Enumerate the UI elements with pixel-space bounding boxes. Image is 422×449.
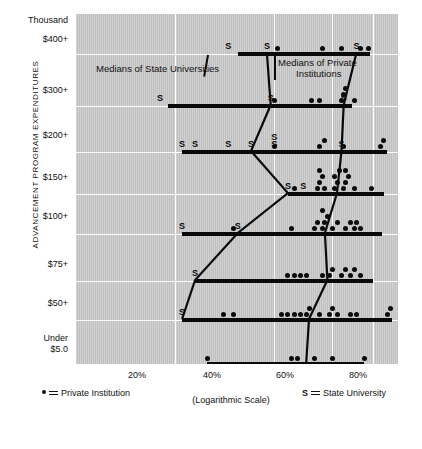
- private-institution-dot: [320, 226, 325, 231]
- private-institution-dot: [231, 312, 236, 317]
- y-tick-100: $100+: [4, 211, 68, 221]
- legend-state-label: State University: [323, 388, 386, 398]
- private-institution-dot: [279, 312, 284, 317]
- annotation-private-line2: Institutions: [278, 68, 341, 79]
- legend-private-dot-icon: [42, 390, 46, 394]
- x-tick-60: 60%: [265, 370, 305, 380]
- private-institution-dot: [289, 356, 294, 361]
- private-institution-dot: [337, 168, 342, 173]
- private-institution-dot: [335, 180, 340, 185]
- y-tick-150: $150+: [4, 172, 68, 182]
- x-tick-20: 20%: [117, 370, 157, 380]
- annotation-private-medians: Medians of Private Institutions: [278, 57, 398, 79]
- private-institution-dot: [315, 186, 320, 191]
- state-university-marker: S: [225, 140, 231, 149]
- private-institution-dot: [354, 312, 359, 317]
- leader-line-private: [274, 52, 276, 80]
- y-axis-unit-label: Thousand: [4, 15, 68, 25]
- private-institution-dot: [304, 273, 309, 278]
- state-university-marker: S: [179, 140, 185, 149]
- equals-icon-2: [311, 391, 320, 395]
- y-tick-200: $200+: [4, 130, 68, 140]
- private-institution-dot: [292, 273, 297, 278]
- private-institution-dot: [358, 226, 363, 231]
- y-tick-50: $50+: [4, 298, 68, 308]
- private-institution-dot: [325, 214, 330, 219]
- equals-icon: [49, 391, 58, 395]
- legend-state: SState University: [302, 388, 386, 398]
- state-university-marker: S: [235, 222, 241, 231]
- private-institution-dot: [354, 220, 359, 225]
- state-university-marker: S: [192, 140, 198, 149]
- private-institution-dot: [388, 306, 393, 311]
- private-institution-dot: [352, 267, 357, 272]
- legend-state-symbol: S: [302, 388, 308, 398]
- private-institution-dot: [292, 312, 297, 317]
- private-institution-dot: [366, 46, 371, 51]
- private-institution-dot: [352, 226, 357, 231]
- private-institution-dot: [339, 273, 344, 278]
- state-university-marker: S: [353, 42, 359, 51]
- private-institution-dot: [330, 267, 335, 272]
- private-institution-dot: [330, 226, 335, 231]
- y-tick-under-line2: $5.0: [4, 344, 68, 355]
- y-tick-75: $75+: [4, 259, 68, 269]
- x-tick-80: 80%: [338, 370, 378, 380]
- private-institution-dot: [348, 273, 353, 278]
- y-tick-400: $400+: [4, 34, 68, 44]
- private-institution-dot: [298, 273, 303, 278]
- private-institution-dot: [346, 174, 351, 179]
- state-university-marker: S: [339, 140, 345, 149]
- private-institution-dot: [339, 46, 344, 51]
- legend-private-label: Private Institution: [61, 388, 130, 398]
- private-institution-dot: [320, 46, 325, 51]
- chart-root: ADVANCEMENT PROGRAM EXPENDITURES Thousan…: [0, 0, 422, 449]
- legend-private: Private Institution: [42, 388, 130, 398]
- state-university-marker: S: [179, 222, 185, 231]
- state-university-marker: S: [225, 42, 231, 51]
- state-university-marker: S: [248, 140, 254, 149]
- private-institution-dot: [385, 312, 390, 317]
- private-institution-dot: [352, 186, 357, 191]
- state-university-marker: S: [271, 133, 277, 142]
- y-tick-300: $300+: [4, 85, 68, 95]
- private-institution-dot: [320, 273, 325, 278]
- private-institution-dot: [205, 356, 210, 361]
- annotation-private-line1: Medians of Private: [278, 57, 357, 68]
- private-institution-dot: [335, 312, 340, 317]
- x-tick-40: 40%: [192, 370, 232, 380]
- state-university-marker: S: [285, 182, 291, 191]
- private-institution-dot: [292, 186, 297, 191]
- y-tick-under-line1: Under: [4, 333, 68, 344]
- private-institution-dot: [320, 208, 325, 213]
- private-institution-dot: [315, 220, 320, 225]
- state-university-marker: S: [268, 94, 274, 103]
- private-institution-dot: [289, 226, 294, 231]
- state-university-marker: S: [157, 94, 163, 103]
- state-university-marker: S: [341, 94, 347, 103]
- state-university-marker: S: [300, 182, 306, 191]
- private-institution-dot: [352, 98, 357, 103]
- state-university-marker: S: [264, 42, 270, 51]
- private-institution-dot: [358, 273, 363, 278]
- private-institution-dot: [330, 306, 335, 311]
- private-institution-dot: [348, 312, 353, 317]
- y-axis-title: ADVANCEMENT PROGRAM EXPENDITURES: [31, 40, 40, 270]
- private-institution-dot: [298, 312, 303, 317]
- private-institution-dot: [378, 144, 383, 149]
- private-institution-dot: [295, 356, 300, 361]
- x-axis-caption: (Logarithmic Scale): [151, 395, 311, 405]
- private-institution-dot: [312, 226, 317, 231]
- private-institution-dot: [221, 312, 226, 317]
- private-institution-dot: [320, 174, 325, 179]
- annotation-state-medians: Medians of State Universities: [96, 63, 219, 74]
- private-institution-dot: [335, 220, 340, 225]
- private-institution-dot: [348, 220, 353, 225]
- private-institution-dot: [362, 356, 367, 361]
- state-university-marker: S: [179, 308, 185, 317]
- private-institution-dot: [312, 356, 317, 361]
- state-university-marker: S: [192, 269, 198, 278]
- plot-area: SSSSSSSSSSSSSSSSSSS Medians of State Uni…: [76, 14, 398, 364]
- private-institution-dot: [304, 312, 309, 317]
- private-institution-dot: [307, 306, 312, 311]
